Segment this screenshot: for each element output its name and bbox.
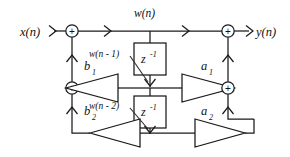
adder-input: + — [66, 25, 78, 37]
adder-output: + — [222, 25, 234, 37]
feedforward-wire-right-upper — [223, 37, 234, 82]
gain-b1: b 1 — [66, 59, 118, 102]
gain-b1-subscript: 1 — [92, 68, 96, 77]
adder-input-symbol: + — [69, 26, 75, 37]
adder-output-symbol: + — [225, 26, 231, 37]
gain-a1-label: a — [201, 59, 207, 73]
gain-a2-label: a — [201, 104, 207, 118]
delay-1-output-wire — [145, 75, 156, 87]
adder-feedforward-1-symbol: + — [225, 83, 231, 94]
delay-1-exponent: -1 — [150, 50, 157, 59]
delay-2-exponent: -1 — [150, 103, 157, 112]
input-label: x(n) — [19, 25, 40, 39]
state-delay-2-label: w(n - 2) — [89, 101, 119, 112]
gain-b1-label: b — [84, 59, 90, 73]
gain-b2-subscript: 2 — [92, 113, 96, 122]
input-wire — [49, 26, 66, 37]
gain-a2: a 2 — [195, 104, 245, 147]
adder-feedforward-1: + — [222, 82, 234, 94]
feedforward-wire-right-lower — [223, 94, 255, 133]
top-signal-wire — [78, 26, 222, 44]
output-wire — [234, 26, 253, 37]
feedback-wire-left-upper — [67, 37, 78, 82]
state-delay-1-label: w(n - 1) — [89, 49, 119, 60]
signal-flow-diagram: + + z -1 — [0, 0, 290, 157]
output-label: y(n) — [254, 25, 276, 39]
gain-a1: a 1 — [182, 59, 234, 102]
gain-a1-subscript: 1 — [209, 68, 213, 77]
gain-a2-subscript: 2 — [209, 113, 213, 122]
state-label: w(n) — [134, 7, 155, 20]
delay-block-1: z -1 — [134, 43, 166, 75]
delay-2-symbol: z — [140, 105, 146, 119]
delay-1-symbol: z — [140, 52, 146, 66]
